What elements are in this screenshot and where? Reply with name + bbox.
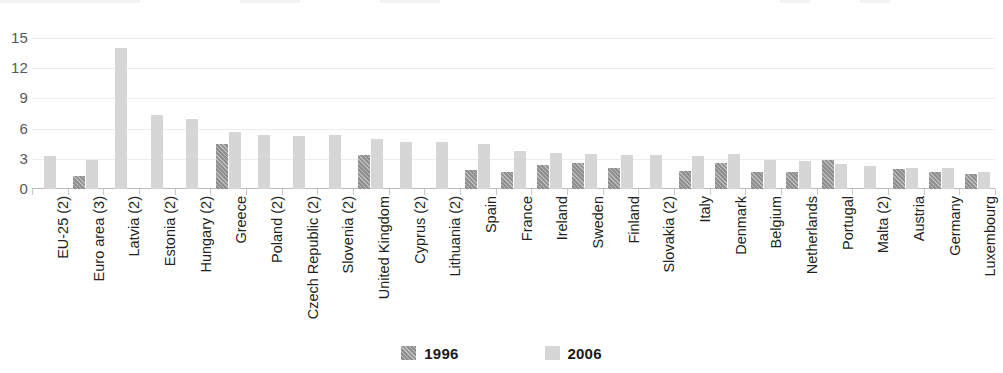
bar-group [745, 28, 781, 189]
x-axis-tick [888, 189, 889, 195]
x-axis-tick [424, 189, 425, 195]
bar-1996 [572, 163, 584, 189]
x-axis-category-label: Finland [627, 196, 642, 244]
x-axis-tick [210, 189, 211, 195]
y-axis-tick-label: 12 [0, 60, 28, 75]
x-axis-tick [995, 189, 996, 195]
y-axis-tick-label: 6 [0, 121, 28, 136]
bar-1996 [679, 171, 691, 189]
x-axis-tick [139, 189, 140, 195]
bar-chart: 03691215 EU-25 (2)Euro area (3)Latvia (2… [0, 0, 1003, 373]
bar-2006 [978, 172, 990, 189]
x-axis-category-label: Slovenia (2) [341, 196, 356, 273]
bar-2006 [692, 156, 704, 189]
bar-1996 [216, 144, 228, 189]
bar-group [68, 28, 104, 189]
x-axis-category-label: Poland (2) [270, 196, 285, 263]
bar-1996 [751, 172, 763, 189]
bar-2006 [585, 154, 597, 189]
legend-swatch-1996-icon [401, 346, 416, 360]
bar-2006 [621, 155, 633, 189]
bar-2006 [864, 166, 876, 189]
x-axis-category-label: Ireland [555, 196, 570, 240]
x-axis-category-label: Portugal [841, 196, 856, 250]
bar-1996 [537, 165, 549, 189]
x-axis-tick [674, 189, 675, 195]
x-axis-tick [924, 189, 925, 195]
x-axis-category-label: Cyprus (2) [413, 196, 428, 264]
x-axis-category-label: Hungary (2) [199, 196, 214, 273]
bar-2006 [258, 135, 270, 189]
bar-group [852, 28, 888, 189]
x-axis-tick [638, 189, 639, 195]
x-axis-tick [353, 189, 354, 195]
legend-label-2006: 2006 [568, 345, 602, 362]
bar-2006 [650, 155, 662, 189]
legend-item-1996: 1996 [401, 345, 458, 362]
x-axis-tick [496, 189, 497, 195]
bar-group [389, 28, 425, 189]
chart-legend: 1996 2006 [0, 341, 1003, 365]
bar-2006 [371, 139, 383, 189]
bar-2006 [835, 164, 847, 189]
x-axis-category-label: Sweden [591, 196, 606, 248]
bar-group [888, 28, 924, 189]
bar-2006 [478, 144, 490, 189]
bar-group [817, 28, 853, 189]
x-axis-tick [781, 189, 782, 195]
bar-2006 [400, 142, 412, 189]
bar-1996 [965, 174, 977, 189]
x-axis-category-label: Slovakia (2) [662, 196, 677, 273]
x-axis-category-label: Czech Republic (2) [306, 196, 321, 319]
bar-group [353, 28, 389, 189]
bar-group [210, 28, 246, 189]
bar-2006 [436, 142, 448, 189]
bar-2006 [44, 156, 56, 189]
x-axis-tick [745, 189, 746, 195]
bar-2006 [906, 168, 918, 189]
bar-1996 [786, 172, 798, 189]
bar-group [603, 28, 639, 189]
x-axis-tick [246, 189, 247, 195]
y-axis-tick-label: 3 [0, 151, 28, 166]
bar-2006 [728, 154, 740, 189]
bar-2006 [186, 119, 198, 189]
bar-2006 [151, 115, 163, 189]
x-axis-category-label: Greece [234, 196, 249, 244]
bar-2006 [942, 168, 954, 189]
x-axis-tick [32, 189, 33, 195]
bar-group [317, 28, 353, 189]
x-axis-category-label: Spain [484, 196, 499, 233]
plot-area [32, 28, 995, 189]
x-axis-tick [567, 189, 568, 195]
bar-group [638, 28, 674, 189]
x-axis-category-label: Denmark [734, 196, 749, 255]
bar-2006 [293, 136, 305, 189]
bar-group [567, 28, 603, 189]
x-axis-tick [852, 189, 853, 195]
x-axis-category-label: Austria [912, 196, 927, 241]
x-axis-category-label: Malta (2) [876, 196, 891, 253]
x-axis-tick [531, 189, 532, 195]
bar-group [710, 28, 746, 189]
legend-item-2006: 2006 [545, 345, 602, 362]
x-axis-category-label: Italy [698, 196, 713, 223]
x-axis-category-label: United Kingdom [377, 196, 392, 299]
x-axis-tick [175, 189, 176, 195]
x-axis-category-label: Euro area (3) [92, 196, 107, 281]
bar-1996 [501, 172, 513, 189]
x-axis-category-label: Belgium [769, 196, 784, 248]
truncated-top-row [0, 0, 1003, 9]
bar-group [139, 28, 175, 189]
bar-group [924, 28, 960, 189]
x-axis-tick [603, 189, 604, 195]
bar-1996 [929, 172, 941, 189]
x-axis-tick [460, 189, 461, 195]
x-axis-category-label: Lithuania (2) [448, 196, 463, 277]
bar-2006 [799, 161, 811, 189]
bar-group [496, 28, 532, 189]
bar-2006 [550, 153, 562, 189]
x-axis-category-label: Latvia (2) [127, 196, 142, 256]
bar-group [175, 28, 211, 189]
y-axis-tick-label: 0 [0, 181, 28, 196]
